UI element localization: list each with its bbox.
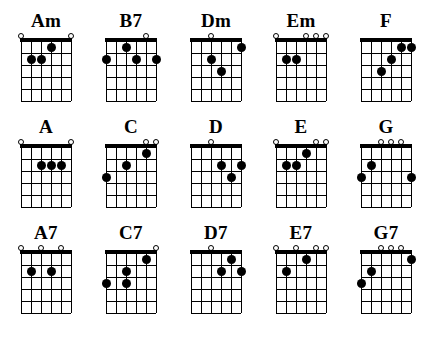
chord-cell-c[interactable]: C	[91, 116, 171, 212]
string-line	[286, 41, 287, 101]
string-line	[401, 147, 402, 207]
chord-diagram	[15, 244, 77, 318]
string-line	[201, 253, 202, 313]
chord-row: A7C7D7E7G7	[6, 222, 426, 328]
chord-name-label: Dm	[201, 10, 231, 31]
fret-line	[191, 101, 241, 102]
chord-diagram	[185, 138, 247, 212]
finger-position-dot	[102, 279, 111, 288]
chord-cell-f[interactable]: F	[346, 10, 426, 106]
fret-line	[21, 277, 71, 278]
fret-line	[191, 195, 241, 196]
fret-line	[361, 195, 411, 196]
chord-cell-b7[interactable]: B7	[91, 10, 171, 106]
chord-diagram	[270, 244, 332, 318]
fret-line	[191, 65, 241, 66]
fret-line	[106, 41, 156, 42]
fret-line	[21, 195, 71, 196]
string-line	[401, 253, 402, 313]
finger-position-dot	[302, 255, 311, 264]
finger-position-dot	[122, 43, 131, 52]
fret-line	[106, 159, 156, 160]
finger-position-dot	[377, 67, 386, 76]
string-line	[61, 253, 62, 313]
fret-line	[106, 313, 156, 314]
string-line	[116, 41, 117, 101]
chord-cell-g7[interactable]: G7	[346, 222, 426, 318]
string-line	[241, 147, 242, 207]
chord-cell-a[interactable]: A	[6, 116, 86, 212]
fret-line	[106, 195, 156, 196]
chord-diagram	[15, 32, 77, 106]
string-line	[316, 41, 317, 101]
string-line	[391, 41, 392, 101]
fret-line	[21, 41, 71, 42]
chord-diagram	[355, 244, 417, 318]
string-line	[296, 147, 297, 207]
string-line	[381, 253, 382, 313]
chord-diagram	[100, 244, 162, 318]
chord-cell-d[interactable]: D	[176, 116, 256, 212]
string-line	[61, 41, 62, 101]
fretboard-grid	[106, 147, 156, 207]
chord-name-label: Em	[286, 10, 315, 31]
fret-line	[21, 183, 71, 184]
chord-name-label: E	[295, 116, 308, 137]
finger-position-dot	[102, 55, 111, 64]
chord-cell-d7[interactable]: D7	[176, 222, 256, 318]
string-line	[146, 41, 147, 101]
fret-line	[106, 89, 156, 90]
fret-line	[21, 147, 71, 148]
string-line	[276, 147, 277, 207]
finger-position-dot	[47, 267, 56, 276]
fret-line	[276, 171, 326, 172]
fret-line	[21, 207, 71, 208]
string-line	[51, 253, 52, 313]
chord-cell-em[interactable]: Em	[261, 10, 341, 106]
string-line	[41, 253, 42, 313]
string-line	[221, 147, 222, 207]
fret-line	[276, 313, 326, 314]
fret-line	[191, 265, 241, 266]
finger-position-dot	[37, 55, 46, 64]
string-line	[231, 41, 232, 101]
chord-cell-dm[interactable]: Dm	[176, 10, 256, 106]
chord-name-label: E7	[290, 222, 313, 243]
finger-position-dot	[152, 55, 161, 64]
fret-line	[191, 77, 241, 78]
fret-line	[361, 265, 411, 266]
finger-position-dot	[37, 161, 46, 170]
chord-cell-a7[interactable]: A7	[6, 222, 86, 318]
chord-cell-am[interactable]: Am	[6, 10, 86, 106]
chord-diagram	[100, 32, 162, 106]
string-line	[71, 253, 72, 313]
string-line	[211, 253, 212, 313]
string-line	[136, 147, 137, 207]
fret-line	[276, 195, 326, 196]
fret-line	[106, 253, 156, 254]
fret-line	[191, 277, 241, 278]
chord-name-label: C7	[119, 222, 143, 243]
fret-line	[106, 65, 156, 66]
chord-diagram	[355, 32, 417, 106]
fret-line	[361, 89, 411, 90]
finger-position-dot	[237, 43, 246, 52]
fret-line	[21, 265, 71, 266]
string-line	[371, 147, 372, 207]
fret-line	[21, 89, 71, 90]
chord-cell-c7[interactable]: C7	[91, 222, 171, 318]
chord-name-label: G	[378, 116, 393, 137]
finger-position-dot	[237, 161, 246, 170]
string-line	[241, 253, 242, 313]
string-line	[306, 41, 307, 101]
string-line	[41, 147, 42, 207]
chord-cell-e[interactable]: E	[261, 116, 341, 212]
chord-cell-g[interactable]: G	[346, 116, 426, 212]
fret-line	[191, 313, 241, 314]
finger-position-dot	[227, 255, 236, 264]
fret-line	[276, 289, 326, 290]
chord-cell-e7[interactable]: E7	[261, 222, 341, 318]
finger-position-dot	[407, 173, 416, 182]
fret-line	[361, 253, 411, 254]
finger-position-dot	[357, 173, 366, 182]
